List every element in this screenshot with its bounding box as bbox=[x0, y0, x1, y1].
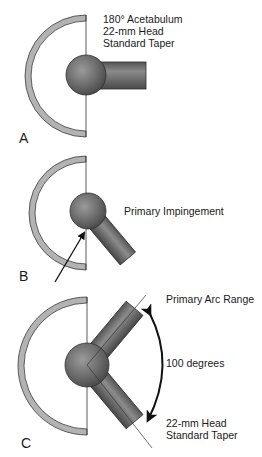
label-head-size: 22-mm Head bbox=[103, 25, 164, 37]
label-arc-range: Primary Arc Range bbox=[166, 293, 254, 305]
panel-a: 180° Acetabulum 22-mm Head Standard Tape… bbox=[19, 13, 183, 146]
panel-c: Primary Arc Range 100 degrees 22-mm Head… bbox=[18, 293, 254, 451]
femoral-head bbox=[66, 55, 106, 95]
panel-b: Primary Impingement B bbox=[19, 156, 224, 284]
panel-letter-b: B bbox=[19, 268, 28, 284]
label-head-size: 22-mm Head bbox=[166, 417, 227, 429]
axis-line-upper bbox=[87, 295, 146, 365]
label-acetabulum: 180° Acetabulum bbox=[103, 13, 183, 25]
panel-letter-a: A bbox=[19, 130, 29, 146]
axis-line-lower bbox=[87, 365, 152, 448]
label-taper: Standard Taper bbox=[103, 37, 175, 49]
label-degrees: 100 degrees bbox=[166, 357, 224, 369]
arc-range-arrow bbox=[148, 314, 163, 420]
hip-range-of-motion-diagram: 180° Acetabulum 22-mm Head Standard Tape… bbox=[0, 0, 262, 457]
panel-letter-c: C bbox=[21, 435, 31, 451]
label-impingement: Primary Impingement bbox=[124, 205, 224, 217]
label-taper: Standard Taper bbox=[166, 429, 238, 441]
femoral-head bbox=[70, 193, 106, 229]
